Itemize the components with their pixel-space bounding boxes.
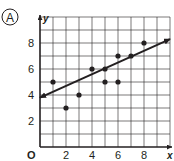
x-tick-label: 6	[115, 149, 121, 161]
y-axis-label: y	[42, 13, 49, 24]
y-tick-label: 6	[28, 63, 34, 75]
y-tick-label: 4	[28, 89, 34, 101]
data-point	[115, 53, 120, 58]
data-point	[50, 79, 55, 84]
data-points	[50, 40, 146, 110]
y-tick-label: 8	[28, 37, 34, 49]
x-tick-label: 4	[89, 149, 95, 161]
data-point	[141, 40, 146, 45]
data-point	[76, 92, 81, 97]
scatter-chart: A 24682468 x y O	[0, 0, 174, 161]
y-tick-label: 2	[28, 115, 34, 127]
data-point	[102, 79, 107, 84]
option-label: A	[2, 9, 18, 25]
option-label-text: A	[6, 11, 14, 25]
data-point	[89, 66, 94, 71]
x-axis-label: x	[166, 150, 173, 161]
data-point	[115, 79, 120, 84]
data-point	[63, 105, 68, 110]
x-tick-label: 8	[141, 149, 147, 161]
x-tick-label: 2	[63, 149, 69, 161]
data-point	[102, 66, 107, 71]
origin-label: O	[27, 149, 36, 161]
data-point	[128, 53, 133, 58]
